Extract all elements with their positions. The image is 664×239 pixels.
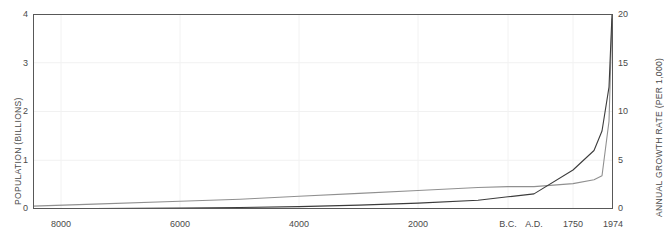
y-tick-left-3: 3 [8, 58, 28, 68]
y-tick-left-0: 0 [8, 203, 28, 213]
x-tick-1974: 1974 [583, 219, 643, 229]
y-tick-right-20: 20 [618, 9, 640, 19]
y-axis-right-title: ANNUAL GROWTH RATE (PER 1,000) [654, 58, 664, 217]
x-tick-6000: 6000 [150, 219, 210, 229]
series-line-growth-rate [33, 19, 612, 206]
x-tick-8000: 8000 [31, 219, 91, 229]
plot-area [33, 14, 613, 209]
x-tick-4000: 4000 [269, 219, 329, 229]
y-tick-right-0: 0 [618, 203, 640, 213]
y-tick-right-5: 5 [618, 155, 640, 165]
y-tick-right-10: 10 [618, 106, 640, 116]
x-tick-2000: 2000 [388, 219, 448, 229]
y-tick-left-2: 2 [8, 106, 28, 116]
y-tick-left-4: 4 [8, 9, 28, 19]
horizontal-gridlines [33, 63, 613, 161]
chart-canvas [33, 14, 613, 209]
y-tick-left-1: 1 [8, 155, 28, 165]
y-tick-right-15: 15 [618, 58, 640, 68]
